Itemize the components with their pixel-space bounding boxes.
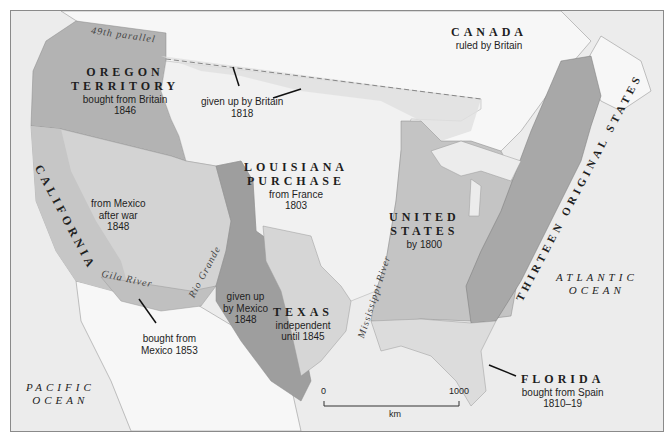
- oregon-note: bought from Britain: [71, 94, 179, 106]
- mexican-cession-label: from Mexico after war 1848: [91, 198, 145, 233]
- britain-1818-label: given up by Britain 1818: [201, 96, 283, 119]
- britain-1818-note: given up by Britain: [201, 96, 283, 108]
- oregon-name-2: TERRITORY: [71, 80, 179, 94]
- scale-start: 0: [321, 386, 326, 396]
- given-up-mexico-note-2: by Mexico: [223, 303, 268, 315]
- given-up-mexico-year: 1848: [223, 314, 268, 326]
- oregon-year: 1846: [71, 105, 179, 117]
- louisiana-name-2: PURCHASE: [244, 175, 348, 189]
- pacific-line-2: OCEAN: [26, 394, 95, 407]
- mexican-cession-note-2: after war: [91, 210, 145, 222]
- us-note: by 1800: [389, 239, 460, 251]
- mexican-cession-note-1: from Mexico: [91, 198, 145, 210]
- louisiana-name-1: LOUISIANA: [244, 161, 348, 175]
- mexican-cession-year: 1848: [91, 221, 145, 233]
- pacific-ocean-label: PACIFIC OCEAN: [26, 381, 95, 406]
- gadsden-label: bought from Mexico 1853: [141, 333, 198, 356]
- florida-label: FLORIDA bought from Spain 1810–19: [521, 373, 604, 410]
- us-name-2: STATES: [389, 225, 460, 239]
- oregon-name-1: OREGON: [71, 66, 179, 80]
- texas-name: TEXAS: [273, 306, 333, 320]
- gadsden-note-1: bought from: [141, 333, 198, 345]
- louisiana-note: from France: [244, 189, 348, 201]
- louisiana-year: 1803: [244, 200, 348, 212]
- united-states-label: UNITED STATES by 1800: [389, 211, 460, 250]
- canada-label: CANADA ruled by Britain: [451, 26, 527, 51]
- scale-unit: km: [389, 409, 401, 419]
- historical-map: CANADA ruled by Britain OREGON TERRITORY…: [10, 10, 664, 432]
- given-up-mexico-label: given up by Mexico 1848: [223, 291, 268, 326]
- us-name-1: UNITED: [389, 211, 460, 225]
- texas-label: TEXAS independent until 1845: [273, 306, 333, 343]
- florida-name: FLORIDA: [521, 373, 604, 387]
- canada-note: ruled by Britain: [451, 40, 527, 52]
- given-up-mexico-note-1: given up: [223, 291, 268, 303]
- atlantic-line-1: ATLANTIC: [556, 271, 638, 284]
- pacific-line-1: PACIFIC: [26, 381, 95, 394]
- britain-1818-year: 1818: [201, 108, 283, 120]
- louisiana-label: LOUISIANA PURCHASE from France 1803: [244, 161, 348, 212]
- oregon-label: OREGON TERRITORY bought from Britain 184…: [71, 66, 179, 117]
- atlantic-line-2: OCEAN: [556, 284, 638, 297]
- gadsden-note-2: Mexico 1853: [141, 345, 198, 357]
- florida-note: bought from Spain: [521, 387, 604, 399]
- texas-note-2: until 1845: [273, 331, 333, 343]
- texas-note-1: independent: [273, 320, 333, 332]
- canada-name: CANADA: [451, 26, 527, 40]
- florida-year: 1810–19: [521, 398, 604, 410]
- atlantic-ocean-label: ATLANTIC OCEAN: [556, 271, 638, 296]
- scale-end: 1000: [449, 386, 469, 396]
